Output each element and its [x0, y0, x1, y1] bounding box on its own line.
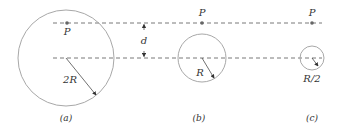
point-p-dot-a: [65, 21, 69, 25]
panel-c: P R/2 (c): [300, 7, 324, 123]
radius-arrow-c: [312, 58, 318, 66]
point-p-dot-b: [200, 21, 204, 25]
radius-label-b: R: [195, 67, 204, 78]
radius-arrow-b: [202, 58, 214, 78]
point-p-dot-c: [310, 21, 314, 25]
diagram-canvas: d P 2R (a) P R (b) P R/2 (c): [0, 0, 342, 132]
radius-label-c: R/2: [302, 73, 320, 84]
caption-a: (a): [60, 113, 73, 123]
separation-label: d: [141, 35, 147, 46]
separation-marker: d: [141, 25, 147, 57]
caption-b: (b): [193, 113, 206, 123]
panel-b: P R (b): [178, 7, 226, 123]
point-p-label-a: P: [63, 26, 71, 37]
point-p-label-b: P: [198, 7, 206, 18]
panel-a: P 2R (a): [18, 10, 114, 123]
radius-label-a: 2R: [62, 74, 77, 85]
point-p-label-c: P: [308, 7, 316, 18]
caption-c: (c): [306, 113, 319, 123]
